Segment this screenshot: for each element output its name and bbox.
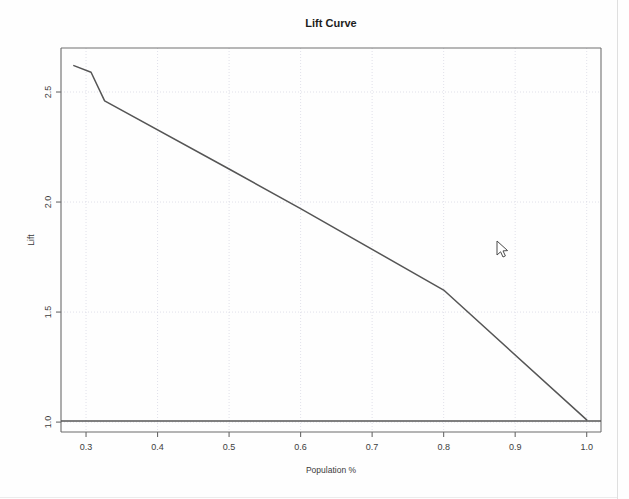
tick-label-x: 0.8 bbox=[437, 442, 450, 452]
x-axis-title: Population % bbox=[306, 465, 357, 475]
data-series-layer bbox=[61, 66, 601, 421]
lift-curve-chart: 0.30.40.50.60.70.80.91.0 1.01.52.02.5 Li… bbox=[0, 0, 629, 499]
mouse-pointer-icon bbox=[497, 241, 508, 257]
tick-label-y: 2.5 bbox=[43, 86, 53, 99]
y-axis-title: Lift bbox=[26, 234, 36, 246]
tick-label-x: 0.6 bbox=[294, 442, 307, 452]
tick-label-y: 1.5 bbox=[43, 306, 53, 319]
page-canvas: 0.30.40.50.60.70.80.91.0 1.01.52.02.5 Li… bbox=[0, 0, 629, 499]
tick-label-x: 0.7 bbox=[366, 442, 379, 452]
grid-lines-horizontal bbox=[61, 92, 601, 422]
tick-label-y: 2.0 bbox=[43, 196, 53, 209]
y-axis-tick-labels: 1.01.52.02.5 bbox=[43, 86, 53, 429]
x-axis-ticks bbox=[86, 432, 587, 437]
tick-label-x: 1.0 bbox=[580, 442, 593, 452]
tick-label-x: 0.9 bbox=[509, 442, 522, 452]
tick-label-x: 0.3 bbox=[80, 442, 93, 452]
chart-title: Lift Curve bbox=[305, 17, 356, 29]
tick-label-x: 0.4 bbox=[151, 442, 164, 452]
grid-lines-vertical bbox=[86, 48, 587, 432]
series-lift bbox=[74, 66, 587, 420]
x-axis-tick-labels: 0.30.40.50.60.70.80.91.0 bbox=[80, 442, 593, 452]
y-axis-ticks bbox=[56, 92, 61, 422]
tick-label-y: 1.0 bbox=[43, 416, 53, 429]
tick-label-x: 0.5 bbox=[223, 442, 236, 452]
